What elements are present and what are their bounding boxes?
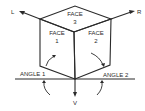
isometric-cube-diagram: L R V FACE 3 FACE 1 FACE 2 ANGLE 1 ANGLE…	[0, 0, 145, 111]
svg-text:3: 3	[73, 19, 77, 25]
svg-text:FACE: FACE	[88, 30, 104, 36]
v-arrowhead-icon	[73, 92, 77, 97]
svg-text:1: 1	[55, 38, 59, 44]
r-axis-label: R	[137, 9, 142, 15]
l-axis-label: L	[11, 9, 15, 15]
curved-arrowhead-icon	[42, 80, 46, 83]
r-axis: R	[111, 9, 142, 19]
face-3-label: FACE 3	[67, 11, 83, 25]
face-2-label: FACE 2	[88, 30, 104, 44]
svg-text:FACE: FACE	[49, 30, 65, 36]
svg-text:2: 2	[94, 38, 98, 44]
v-axis: V	[73, 79, 77, 106]
angle-1-label: ANGLE 1	[20, 71, 46, 77]
v-axis-label: V	[73, 100, 77, 106]
angle-2-label: ANGLE 2	[103, 72, 129, 78]
curved-arrowhead-icon	[100, 80, 104, 83]
svg-text:FACE: FACE	[67, 11, 83, 17]
l-axis: L	[11, 9, 40, 19]
curved-arrowhead-icon	[101, 63, 105, 67]
face-1-label: FACE 1	[49, 30, 65, 44]
face-2-outline	[74, 19, 111, 79]
face-1-outline	[40, 19, 75, 79]
r-arrowhead-icon	[129, 10, 135, 14]
